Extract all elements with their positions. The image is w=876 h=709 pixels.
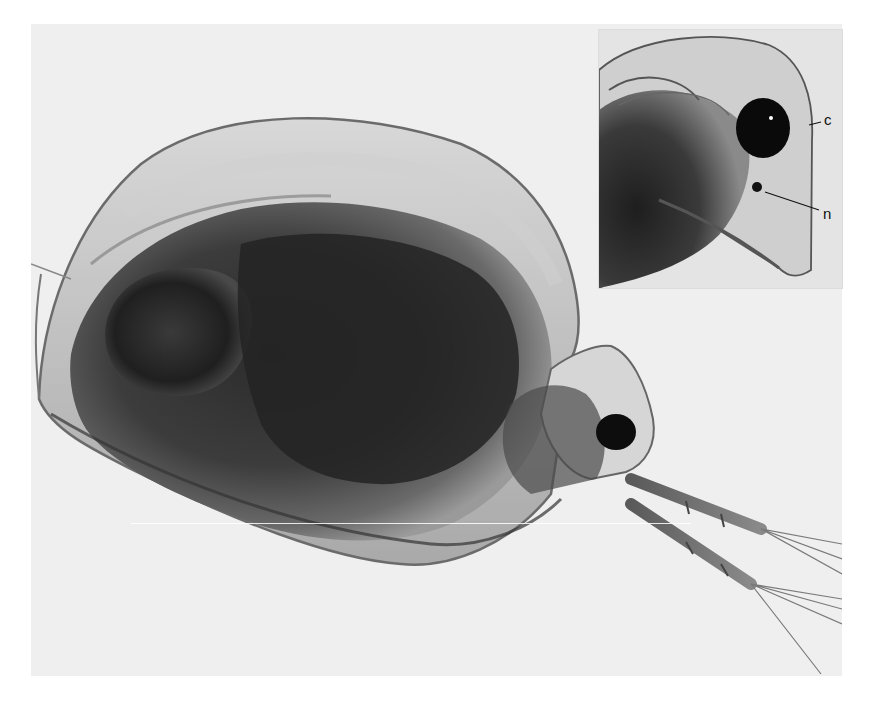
inset-micrograph: c n bbox=[599, 30, 842, 288]
inset-compound-eye bbox=[736, 98, 790, 158]
compound-eye bbox=[596, 414, 636, 450]
label-c: c bbox=[824, 112, 832, 127]
scan-artifact-line bbox=[131, 523, 691, 524]
head-detail-illustration bbox=[599, 30, 842, 288]
figure: c n bbox=[0, 0, 876, 709]
nauplius-eye bbox=[752, 182, 762, 192]
label-n: n bbox=[823, 206, 831, 221]
